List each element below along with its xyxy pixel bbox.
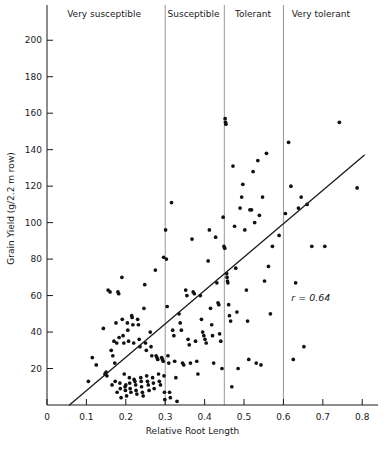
y-tick-label: 140 xyxy=(25,145,42,155)
data-point xyxy=(227,303,231,307)
data-point xyxy=(94,363,98,367)
data-point xyxy=(129,390,133,394)
data-point xyxy=(230,385,234,389)
y-axis-label: Grain Yield (g/2.2 m row) xyxy=(6,152,16,264)
data-point xyxy=(140,385,144,389)
data-points-group xyxy=(87,117,359,403)
data-point xyxy=(310,244,314,248)
data-point xyxy=(165,257,169,261)
data-point xyxy=(121,334,125,338)
data-point xyxy=(139,379,143,383)
y-tick-label: 40 xyxy=(31,327,43,337)
data-point xyxy=(144,348,148,352)
data-point xyxy=(152,381,156,385)
correlation-annotation: r = 0.64 xyxy=(291,292,330,303)
data-point xyxy=(120,317,124,321)
data-point xyxy=(200,317,204,321)
data-point xyxy=(119,396,123,400)
data-point xyxy=(114,321,118,325)
data-point xyxy=(162,374,166,378)
data-point xyxy=(128,376,132,380)
data-point xyxy=(302,345,306,349)
data-point xyxy=(115,390,119,394)
data-point xyxy=(165,305,169,309)
data-point xyxy=(175,400,179,404)
data-point xyxy=(265,151,269,155)
data-point xyxy=(154,268,158,272)
zone-label-2: Tolerant xyxy=(234,9,271,19)
data-point xyxy=(90,356,94,360)
data-point xyxy=(203,337,207,341)
data-point xyxy=(277,234,281,238)
data-point xyxy=(167,361,171,365)
data-point xyxy=(122,341,126,345)
data-point xyxy=(124,383,128,387)
data-point xyxy=(134,389,138,393)
data-point xyxy=(142,306,146,310)
data-point xyxy=(210,323,214,327)
x-axis: 00.10.20.30.40.50.60.70.8 xyxy=(44,399,378,422)
data-point xyxy=(130,316,134,320)
data-point xyxy=(233,224,237,228)
data-point xyxy=(120,275,124,279)
data-point xyxy=(231,164,235,168)
data-point xyxy=(323,244,327,248)
data-point xyxy=(243,228,247,232)
y-tick-label: 100 xyxy=(25,218,42,228)
data-point xyxy=(168,396,172,400)
grain-yield-vs-root-length-chart: Very susceptibleSusceptibleTolerantVery … xyxy=(0,0,392,451)
data-point xyxy=(102,327,106,331)
data-point xyxy=(151,376,155,380)
data-point xyxy=(208,228,212,232)
scatter-plot-figure: Very susceptibleSusceptibleTolerantVery … xyxy=(0,0,392,451)
data-point xyxy=(132,341,136,345)
x-tick-label: 0.2 xyxy=(119,412,133,422)
y-tick-label: 200 xyxy=(25,35,42,45)
data-point xyxy=(214,235,218,239)
data-point xyxy=(246,319,250,323)
data-point xyxy=(126,328,130,332)
data-point xyxy=(219,339,223,343)
y-tick-label: 120 xyxy=(25,181,42,191)
data-point xyxy=(146,383,150,387)
data-point xyxy=(294,281,298,285)
data-point xyxy=(113,379,117,383)
data-point xyxy=(118,387,122,391)
zone-label-1: Susceptible xyxy=(168,9,221,19)
data-point xyxy=(187,343,191,347)
data-point xyxy=(206,259,210,263)
data-point xyxy=(234,266,238,270)
x-tick-label: 0.3 xyxy=(158,412,172,422)
data-point xyxy=(209,306,213,310)
data-point xyxy=(178,321,182,325)
data-point xyxy=(148,330,152,334)
data-point xyxy=(355,186,359,190)
data-point xyxy=(110,383,114,387)
data-point xyxy=(172,334,176,338)
y-axis: 20406080100120140160180200 xyxy=(25,5,53,405)
data-point xyxy=(118,381,122,385)
data-point xyxy=(134,383,138,387)
data-point xyxy=(152,387,156,391)
data-point xyxy=(146,379,150,383)
data-point xyxy=(141,390,145,394)
data-point xyxy=(235,310,239,314)
data-point xyxy=(271,244,275,248)
data-point xyxy=(247,358,251,362)
y-tick-label: 80 xyxy=(31,254,43,264)
data-point xyxy=(196,372,200,376)
data-point xyxy=(284,212,288,216)
data-point xyxy=(225,275,229,279)
data-point xyxy=(202,334,206,338)
data-point xyxy=(115,341,119,345)
data-point xyxy=(124,389,128,393)
data-point xyxy=(241,182,245,186)
data-point xyxy=(161,359,165,363)
data-point xyxy=(128,381,132,385)
data-point xyxy=(223,117,227,121)
data-point xyxy=(171,328,175,332)
y-tick-label: 180 xyxy=(25,72,42,82)
data-point xyxy=(135,392,139,396)
data-point xyxy=(240,195,244,199)
data-point xyxy=(201,330,205,334)
